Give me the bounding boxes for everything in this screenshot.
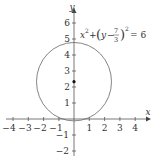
center-point (72, 80, 75, 83)
svg-text:= 6: = 6 (130, 30, 146, 40)
y-tick-label: 6 (64, 18, 70, 28)
svg-text:3: 3 (114, 36, 118, 44)
x-tick-label: 1 (86, 123, 92, 133)
y-tick-label: 1 (64, 98, 70, 108)
x-tick-label: −3 (18, 123, 32, 133)
equation-label: x 2 + ( y − 7 3 ) 2 = 6 (80, 25, 146, 44)
x-tick-label: −2 (33, 123, 46, 133)
y-tick-label: −2 (56, 146, 69, 156)
y-tick-label: 4 (64, 50, 70, 60)
x-axis-label: x (145, 107, 150, 117)
svg-text:y: y (100, 30, 107, 40)
y-tick-label: 2 (64, 82, 70, 92)
x-axis-arrow-icon (146, 117, 151, 122)
x-tick-label: 4 (132, 123, 138, 133)
y-tick-label: −1 (56, 130, 69, 140)
svg-text:2: 2 (125, 25, 129, 32)
x-tick-label: 2 (102, 123, 108, 133)
graph-canvas: −4 −3 −2 −1 1 2 3 4 x −2 −1 1 2 3 4 5 6 … (0, 0, 152, 159)
x-tick-label: −4 (2, 123, 16, 133)
svg-text:7: 7 (114, 27, 118, 35)
y-tick-label: 3 (64, 66, 70, 76)
y-axis-label: y (68, 2, 75, 12)
x-tick-label: 3 (117, 123, 123, 133)
